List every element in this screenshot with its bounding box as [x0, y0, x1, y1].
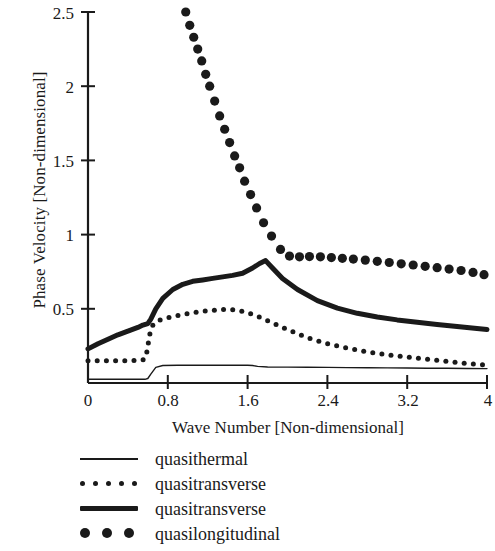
- x-axis-label: Wave Number [Non-dimensional]: [88, 418, 488, 438]
- data-point: [267, 231, 276, 240]
- data-point: [144, 350, 149, 355]
- data-point: [150, 323, 155, 328]
- legend-label-quasilongitudinal: quasilongitudinal: [143, 525, 280, 543]
- data-point: [201, 70, 210, 79]
- data-series-layer: [86, 7, 489, 379]
- data-point: [181, 7, 190, 16]
- data-point: [220, 125, 229, 134]
- data-point: [248, 311, 253, 316]
- data-point: [385, 258, 394, 267]
- legend-item-quasilongitudinal: quasilongitudinal: [75, 521, 485, 546]
- data-point: [316, 252, 325, 261]
- data-point: [316, 339, 321, 344]
- data-point: [141, 357, 146, 362]
- data-point: [434, 358, 439, 363]
- data-point: [274, 322, 279, 327]
- data-point: [146, 340, 151, 345]
- legend-dot: [106, 481, 111, 486]
- data-point: [205, 82, 214, 91]
- legend-dot: [102, 528, 112, 538]
- data-point: [352, 347, 357, 352]
- data-point: [407, 355, 412, 360]
- data-point: [468, 268, 477, 277]
- legend-dot: [124, 528, 134, 538]
- data-point: [95, 358, 100, 363]
- data-point: [193, 45, 202, 54]
- legend-dot: [80, 481, 85, 486]
- data-point: [122, 358, 127, 363]
- data-point: [299, 333, 304, 338]
- data-point: [225, 138, 234, 147]
- data-point: [259, 218, 268, 227]
- data-point: [104, 358, 109, 363]
- data-point: [388, 353, 393, 358]
- data-point: [131, 358, 136, 363]
- data-point: [325, 341, 330, 346]
- legend-dot: [80, 528, 90, 538]
- legend-item-quasitransverse-dotted: quasitransverse: [75, 471, 485, 496]
- data-point: [147, 331, 152, 336]
- data-point: [113, 358, 118, 363]
- data-point: [397, 259, 406, 268]
- data-point: [295, 252, 304, 261]
- data-point: [185, 311, 190, 316]
- data-point: [334, 343, 339, 348]
- legend-dot: [132, 481, 137, 486]
- data-point: [416, 356, 421, 361]
- data-point: [185, 21, 194, 30]
- data-point: [197, 56, 206, 65]
- legend-key-thick-solid: [75, 496, 143, 521]
- data-point: [409, 260, 418, 269]
- data-point: [210, 96, 219, 105]
- data-point: [361, 349, 366, 354]
- data-point: [215, 111, 224, 120]
- data-point: [189, 33, 198, 42]
- data-point: [252, 203, 261, 212]
- data-point: [166, 315, 171, 320]
- figure: Phase Velocity [Non-dimensional] 2.5 2 1…: [0, 0, 495, 551]
- data-point: [338, 254, 347, 263]
- legend-key-large-dotted: [75, 521, 143, 546]
- series-line: [88, 365, 487, 379]
- axis-lines: [88, 12, 487, 383]
- data-point: [462, 361, 467, 366]
- legend-item-quasitransverse-thick: quasitransverse: [75, 496, 485, 521]
- legend-label-quasithermal: quasithermal: [143, 450, 248, 468]
- data-point: [308, 336, 313, 341]
- data-point: [471, 361, 476, 366]
- legend-key-small-dotted: [75, 471, 143, 496]
- data-point: [379, 352, 384, 357]
- data-point: [175, 313, 180, 318]
- data-point: [453, 360, 458, 365]
- plot-area: [0, 0, 495, 410]
- data-point: [86, 358, 91, 363]
- data-point: [425, 357, 430, 362]
- legend-item-quasithermal: quasithermal: [75, 446, 485, 471]
- data-point: [221, 307, 226, 312]
- legend-label-quasitransverse-thick: quasitransverse: [143, 500, 266, 518]
- data-point: [373, 257, 382, 266]
- data-point: [349, 254, 358, 263]
- data-point: [239, 309, 244, 314]
- data-point: [290, 329, 295, 334]
- data-point: [444, 264, 453, 273]
- data-point: [398, 354, 403, 359]
- legend-label-quasitransverse-dotted: quasitransverse: [143, 475, 266, 493]
- data-point: [343, 345, 348, 350]
- data-point: [305, 252, 314, 261]
- data-point: [203, 309, 208, 314]
- legend: quasithermal quasitransverse quasitransv…: [75, 446, 485, 546]
- legend-dot: [119, 481, 124, 486]
- data-point: [421, 262, 430, 271]
- series-line: [88, 261, 487, 349]
- data-point: [479, 270, 488, 279]
- data-point: [480, 362, 485, 367]
- data-point: [246, 190, 255, 199]
- data-point: [370, 350, 375, 355]
- data-point: [456, 266, 465, 275]
- data-point: [235, 163, 244, 172]
- legend-key-thin-solid: [75, 446, 143, 471]
- data-point: [282, 326, 287, 331]
- data-point: [265, 318, 270, 323]
- data-point: [327, 253, 336, 262]
